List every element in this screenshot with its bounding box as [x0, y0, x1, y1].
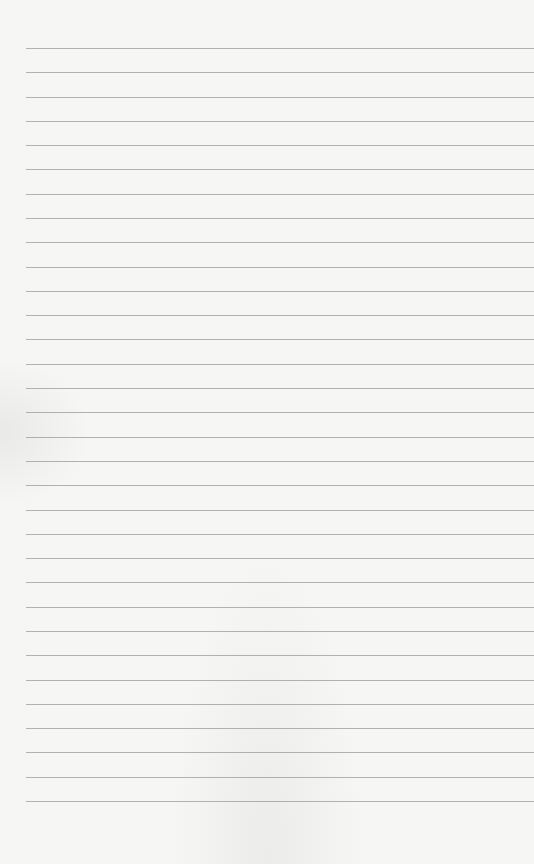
ruled-line	[26, 704, 534, 705]
ruled-line	[26, 752, 534, 753]
ruled-line	[26, 437, 534, 438]
ruled-line	[26, 728, 534, 729]
ruled-line	[26, 534, 534, 535]
ruled-line	[26, 364, 534, 365]
ruled-line	[26, 777, 534, 778]
lined-paper	[0, 0, 534, 864]
ruled-line	[26, 291, 534, 292]
ruled-line	[26, 121, 534, 122]
ruled-line	[26, 412, 534, 413]
ruled-line	[26, 145, 534, 146]
ruled-line	[26, 194, 534, 195]
ruled-line	[26, 558, 534, 559]
ruled-line	[26, 97, 534, 98]
ruled-line	[26, 607, 534, 608]
ruled-line	[26, 655, 534, 656]
ruled-line	[26, 315, 534, 316]
ruled-line	[26, 267, 534, 268]
ruled-line	[26, 388, 534, 389]
ruled-line	[26, 461, 534, 462]
ruled-line	[26, 48, 534, 49]
ruled-line	[26, 582, 534, 583]
ruled-line	[26, 485, 534, 486]
ruled-line	[26, 218, 534, 219]
ruled-line	[26, 680, 534, 681]
ruled-line	[26, 339, 534, 340]
ruled-line	[26, 72, 534, 73]
ruled-line	[26, 801, 534, 802]
ruled-line	[26, 631, 534, 632]
ruled-line	[26, 242, 534, 243]
ruled-line	[26, 169, 534, 170]
ruled-line	[26, 510, 534, 511]
